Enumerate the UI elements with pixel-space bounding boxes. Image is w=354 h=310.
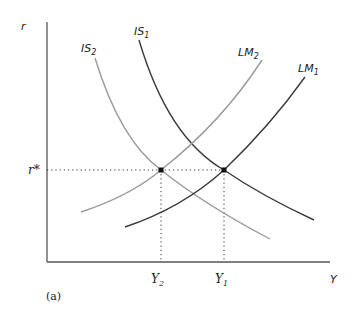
equilibrium-point-1 (222, 168, 227, 173)
r-star-label: r* (28, 163, 40, 177)
y2-label: Y2 (151, 272, 164, 288)
lm1-label: LM1 (298, 62, 319, 77)
x-axis-label: Y (330, 273, 338, 286)
lm1-curve (125, 77, 305, 227)
is2-label: IS2 (81, 42, 96, 57)
y1-label: Y1 (215, 272, 228, 288)
equilibrium-point-2 (159, 168, 164, 173)
is1-label: IS1 (134, 25, 149, 40)
lm2-label: LM2 (238, 46, 259, 61)
is-lm-diagram: IS2 IS1 LM2 LM1 r Y r* Y2 Y1 (a) (0, 0, 354, 310)
figure-caption: (a) (46, 290, 61, 303)
y-axis-label: r (21, 20, 27, 33)
lm2-curve (81, 60, 262, 212)
is1-curve (139, 40, 314, 220)
